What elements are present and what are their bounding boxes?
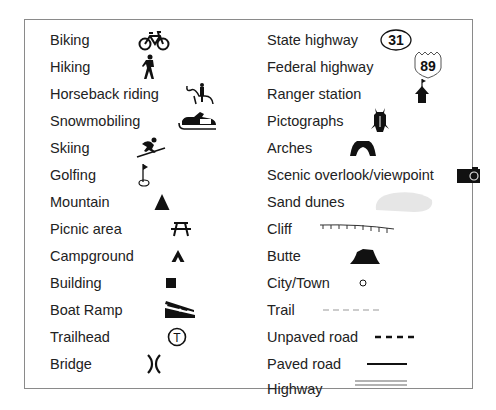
legend-label: Sand dunes [267, 190, 344, 214]
legend-label: Trail [267, 298, 295, 322]
camera-icon [457, 163, 481, 187]
svg-text:89: 89 [420, 58, 436, 74]
svg-text:T: T [173, 331, 181, 345]
legend-label: Campground [50, 244, 134, 268]
legend-label: Unpaved road [267, 325, 358, 349]
paved-road-line-icon [367, 352, 407, 376]
legend-label: Skiing [50, 136, 90, 160]
legend-label: City/Town [267, 271, 330, 295]
legend-label: Arches [267, 136, 312, 160]
sand-dunes-blob-icon [374, 187, 434, 217]
legend-label: Highway [267, 377, 323, 401]
legend-label: Biking [50, 28, 90, 52]
picnic-table-icon [170, 217, 192, 241]
legend-label: Picnic area [50, 217, 122, 241]
legend-label: Cliff [267, 217, 292, 241]
bicycle-icon [138, 28, 170, 52]
golf-flag-icon [137, 163, 151, 187]
tent-icon [171, 244, 185, 268]
legend-label: Pictographs [267, 109, 344, 133]
ranger-station-icon [414, 76, 430, 106]
svg-text:31: 31 [388, 32, 404, 48]
legend-label: State highway [267, 28, 358, 52]
unpaved-road-dashed-line-icon [375, 325, 415, 349]
snowmobile-icon [178, 109, 218, 133]
legend-label: Bridge [50, 352, 92, 376]
mountain-triangle-icon [154, 190, 170, 214]
legend-label: Paved road [267, 352, 341, 376]
city-dot-icon [358, 271, 368, 295]
trailhead-circle-t-icon: T [167, 325, 187, 349]
legend-label: Golfing [50, 163, 96, 187]
bridge-icon [146, 352, 162, 376]
legend-label: Boat Ramp [50, 298, 123, 322]
legend-label: Snowmobiling [50, 109, 140, 133]
butte-icon [349, 244, 381, 268]
legend-label: Horseback riding [50, 82, 159, 106]
legend-label: Scenic overlook/viewpoint [267, 163, 434, 187]
hiker-icon [142, 55, 158, 79]
horseback-rider-icon [185, 82, 215, 106]
arch-icon [349, 136, 377, 160]
legend-label: Federal highway [267, 55, 373, 79]
boat-ramp-icon [164, 298, 196, 322]
pictograph-figure-icon [370, 104, 390, 136]
skier-icon [136, 136, 166, 160]
highway-double-line-icon [355, 377, 407, 389]
legend-label: Trailhead [50, 325, 110, 349]
legend-label: Building [50, 271, 102, 295]
map-legend: Biking Hiking Horseback riding Snowmobil… [24, 19, 473, 389]
cliff-line-icon [319, 217, 395, 241]
legend-label: Butte [267, 244, 301, 268]
trail-dashed-line-icon [323, 298, 383, 322]
state-highway-oval-icon: 31 [380, 28, 412, 52]
legend-label: Hiking [50, 55, 90, 79]
legend-label: Mountain [50, 190, 110, 214]
legend-label: Ranger station [267, 82, 361, 106]
building-square-icon [166, 271, 176, 295]
